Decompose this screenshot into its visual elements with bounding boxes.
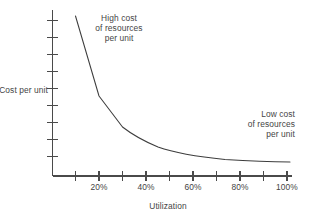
x-tick-label-20: 20% (79, 182, 119, 192)
x-axis-title: Utilization (123, 201, 213, 211)
low-cost-annotation-line-3: per unit (266, 129, 295, 139)
low-cost-annotation-line-2: of resources (248, 119, 295, 129)
high-cost-annotation-line-3: per unit (105, 33, 134, 43)
high-cost-annotation: High cost of resources per unit (74, 13, 164, 44)
x-tick-label-60: 60% (173, 182, 213, 192)
high-cost-annotation-line-2: of resources (95, 23, 142, 33)
cost-utilization-chart: Cost per unit Utilization 20% 40% 60% 80… (0, 0, 310, 221)
high-cost-annotation-line-1: High cost (101, 13, 137, 23)
y-axis-title: Cost per unit (0, 85, 48, 96)
x-tick-label-40: 40% (126, 182, 166, 192)
x-tick-label-100: 100% (267, 182, 307, 192)
low-cost-annotation-line-1: Low cost (261, 109, 295, 119)
x-tick-label-80: 80% (220, 182, 260, 192)
low-cost-annotation: Low cost of resources per unit (200, 109, 295, 140)
